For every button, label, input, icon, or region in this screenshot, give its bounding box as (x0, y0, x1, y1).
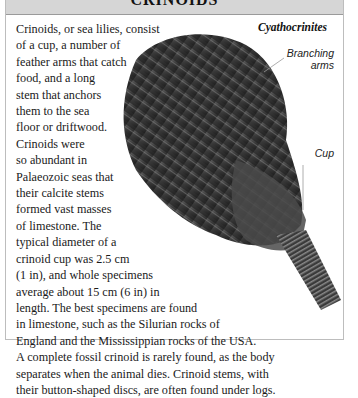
text-line: them to the sea (16, 103, 346, 119)
text-line: England and the Mississippian rocks of t… (16, 333, 346, 349)
text-line: A complete fossil crinoid is rarely foun… (16, 349, 346, 365)
text-line: (1 in), and whole specimens (16, 267, 346, 283)
text-line: Crinoids, or sea lilies, consist (16, 21, 346, 37)
text-line: so abundant in (16, 152, 346, 168)
text-line: stem that anchors (16, 87, 346, 103)
text-line: Crinoids were (16, 136, 346, 152)
text-line: typical diameter of a (16, 234, 346, 250)
text-line: crinoid cup was 2.5 cm (16, 251, 346, 267)
text-line: floor or driftwood. (16, 119, 346, 135)
text-line: Palaeozoic seas that (16, 169, 346, 185)
text-line: in limestone, such as the Silurian rocks… (16, 316, 346, 332)
text-line: separates when the animal dies. Crinoid … (16, 366, 346, 382)
text-line: their button-shaped discs, are often fou… (16, 382, 346, 398)
text-line: average about 15 cm (6 in) in (16, 284, 346, 300)
page-frame: CRINOIDS Cyathocri (5, 0, 344, 340)
body-text: Crinoids, or sea lilies, consist of a cu… (16, 21, 346, 398)
text-line: length. The best specimens are found (16, 300, 346, 316)
text-line: of limestone. The (16, 218, 346, 234)
text-line: food, and a long (16, 70, 346, 86)
text-line: feather arms that catch (16, 54, 346, 70)
text-line: of a cup, a number of (16, 37, 346, 53)
text-line: formed vast masses (16, 201, 346, 217)
text-line: their calcite stems (16, 185, 346, 201)
